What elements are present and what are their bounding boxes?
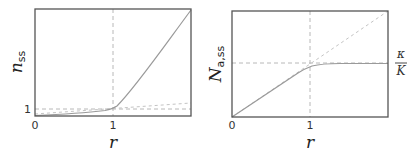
right-panel: 0 1 r Na,ss κ K [205, 11, 407, 152]
left-xlabel: r [109, 132, 118, 152]
left-ytick-1: 1 [24, 103, 31, 116]
right-xtick-0: 0 [229, 119, 236, 132]
plateau-label-denominator: K [396, 64, 407, 78]
svg-text:nss: nss [6, 51, 28, 74]
left-ylabel: nss [6, 51, 28, 74]
svg-text:Na,ss: Na,ss [205, 45, 227, 83]
left-ylabel-main: n [6, 62, 26, 73]
left-panel: 0 1 1 r nss [6, 9, 191, 152]
right-xtick-1: 1 [307, 119, 314, 132]
right-plateau-label: κ K [395, 47, 407, 78]
right-xlabel: r [306, 132, 315, 152]
figure: 0 1 1 r nss 0 1 r Na,ss κ K [0, 0, 416, 154]
plateau-label-numerator: κ [396, 47, 405, 61]
left-xtick-0: 0 [32, 119, 39, 132]
left-xtick-1: 1 [110, 119, 117, 132]
right-ylabel-subscript: a,ss [214, 45, 227, 67]
right-ylabel-main: N [205, 66, 225, 83]
left-ylabel-subscript: ss [15, 51, 28, 63]
right-ylabel: Na,ss [205, 45, 227, 83]
